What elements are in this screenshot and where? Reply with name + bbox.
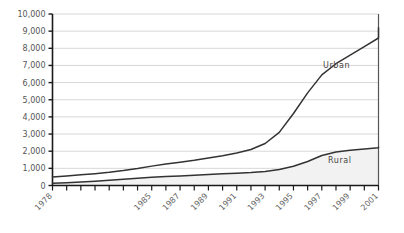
x-tick-label: 2001 xyxy=(359,192,380,213)
x-tick-label: 1997 xyxy=(302,192,323,213)
x-tick-label: 1985 xyxy=(132,192,153,213)
y-tick-label: 5,000 xyxy=(23,96,46,105)
line-area-chart: 10,0009,0008,0007,0006,0005,0004,0003,00… xyxy=(0,0,404,233)
y-tick-label: 4,000 xyxy=(23,113,46,122)
y-tick-label: 3,000 xyxy=(23,130,46,139)
rural-area-fill xyxy=(53,147,379,186)
x-tick-label: 1993 xyxy=(246,192,267,213)
x-tick-label: 1999 xyxy=(331,192,352,213)
x-tick-label: 1995 xyxy=(274,192,295,213)
y-tick-label: 9,000 xyxy=(23,27,46,36)
x-tick-label: 1991 xyxy=(217,192,238,213)
x-tick-label-group: 1978198519871989199119931995199719992001 xyxy=(33,192,380,213)
area-fill-group xyxy=(53,147,379,186)
x-tick-label: 1978 xyxy=(33,192,54,213)
y-tick-label: 8,000 xyxy=(23,44,46,53)
series-label-urban: Urban xyxy=(323,61,350,70)
y-tick-label: 6,000 xyxy=(23,79,46,88)
series-label-group: UrbanRural xyxy=(323,61,352,165)
chart-container: 10,0009,0008,0007,0006,0005,0004,0003,00… xyxy=(0,0,404,233)
y-tick-label: 2,000 xyxy=(23,147,46,156)
x-tick-label: 1989 xyxy=(189,192,210,213)
y-tick-label: 7,000 xyxy=(23,61,46,70)
y-tick-label: 1,000 xyxy=(23,164,46,173)
y-tick-label-group: 10,0009,0008,0007,0006,0005,0004,0003,00… xyxy=(18,10,46,191)
y-tick-label: 10,000 xyxy=(18,10,46,19)
x-tick-label: 1987 xyxy=(161,192,182,213)
y-tick-label: 0 xyxy=(40,182,45,191)
series-label-rural: Rural xyxy=(328,156,352,165)
gridline-group xyxy=(53,14,379,168)
